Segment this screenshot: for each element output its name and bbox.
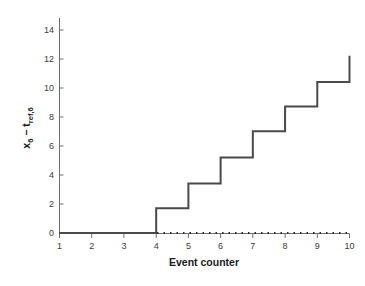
y-tick-label-10: 10 — [44, 83, 54, 93]
x-axis-title: Event counter — [169, 256, 239, 268]
y-tick-label-12: 12 — [44, 54, 54, 64]
x-tick-label-10: 10 — [344, 241, 354, 251]
x-tick-label-9: 9 — [315, 241, 320, 251]
y-axis-title-ref-sub: ref,6 — [26, 107, 35, 123]
x-tick-label-8: 8 — [283, 241, 288, 251]
y-axis-title: x6 − tref,6 — [20, 107, 35, 148]
y-axis-title-minus: − — [20, 127, 32, 139]
y-tick-label-4: 4 — [49, 170, 54, 180]
y-tick-label-2: 2 — [49, 199, 54, 209]
series-step — [60, 56, 350, 233]
x-tick-label-6: 6 — [218, 241, 223, 251]
y-tick-label-6: 6 — [49, 141, 54, 151]
chart-figure: 0 2 4 6 8 10 12 14 1 2 3 4 5 6 7 8 9 10 — [0, 0, 365, 286]
x-tick-label-7: 7 — [250, 241, 255, 251]
x-tick-marks — [60, 234, 350, 239]
x-tick-label-3: 3 — [121, 241, 126, 251]
y-tick-label-8: 8 — [49, 112, 54, 122]
y-tick-label-0: 0 — [49, 228, 54, 238]
svg-text:x6 − tref,6: x6 − tref,6 — [20, 107, 35, 148]
y-tick-marks — [60, 30, 64, 233]
chart-plot-area: 0 2 4 6 8 10 12 14 1 2 3 4 5 6 7 8 9 10 — [0, 0, 365, 286]
x-tick-label-4: 4 — [154, 241, 159, 251]
x-tick-label-2: 2 — [89, 241, 94, 251]
x-tick-label-5: 5 — [186, 241, 191, 251]
y-tick-label-14: 14 — [44, 25, 54, 35]
x-tick-label-1: 1 — [57, 241, 62, 251]
